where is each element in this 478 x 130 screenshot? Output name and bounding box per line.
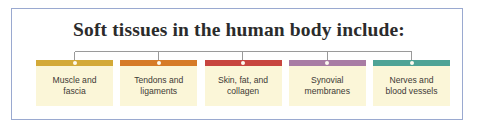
- connector-dot-icon: [410, 61, 414, 65]
- card-label-line2: collagen: [227, 86, 259, 96]
- page-title: Soft tissues in the human body include:: [0, 19, 478, 41]
- card-label-line2: membranes: [305, 86, 350, 96]
- card-label: Tendons and ligaments: [120, 66, 197, 106]
- card-label-line1: Synovial: [311, 75, 343, 85]
- card-skin-fat-and-collagen[interactable]: Skin, fat, and collagen: [205, 60, 282, 106]
- card-label-line1: Skin, fat, and: [218, 75, 268, 85]
- card-label-line1: Muscle and: [53, 75, 97, 85]
- card-label-line2: fascia: [63, 86, 85, 96]
- card-label: Synovial membranes: [289, 66, 366, 106]
- card-label: Nerves and blood vessels: [373, 66, 450, 106]
- connector-dot-icon: [241, 61, 245, 65]
- card-muscle-and-fascia[interactable]: Muscle and fascia: [36, 60, 113, 106]
- card-tendons-and-ligaments[interactable]: Tendons and ligaments: [120, 60, 197, 106]
- card-label-line1: Tendons and: [134, 75, 183, 85]
- card-label: Skin, fat, and collagen: [205, 66, 282, 106]
- card-label-line2: blood vessels: [385, 86, 437, 96]
- connector-dot-icon: [73, 61, 77, 65]
- infographic-canvas: Soft tissues in the human body include: …: [0, 0, 478, 130]
- card-label: Muscle and fascia: [36, 66, 113, 106]
- card-nerves-and-blood-vessels[interactable]: Nerves and blood vessels: [373, 60, 450, 106]
- card-label-line1: Nerves and: [390, 75, 434, 85]
- card-label-line2: ligaments: [140, 86, 177, 96]
- card-synovial-membranes[interactable]: Synovial membranes: [289, 60, 366, 106]
- connector-dot-icon: [157, 61, 161, 65]
- card-row: Muscle and fascia Tendons and ligaments: [36, 60, 450, 106]
- connector-dot-icon: [325, 61, 329, 65]
